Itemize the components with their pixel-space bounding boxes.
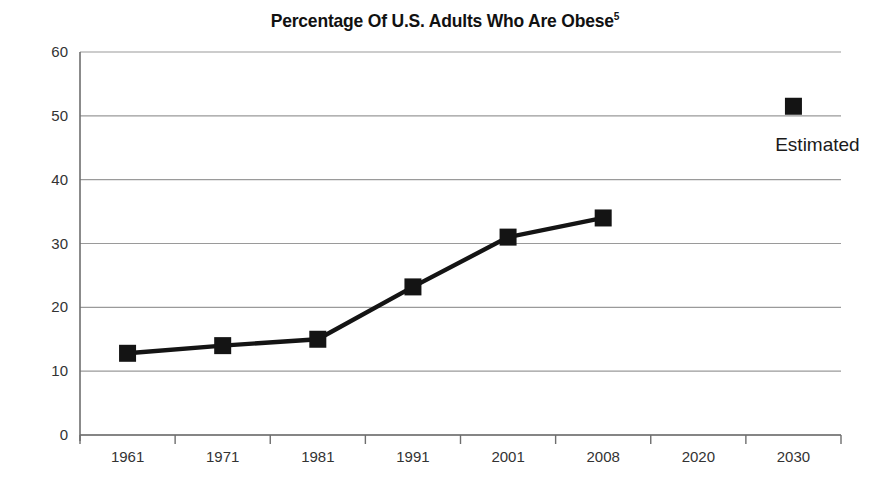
data-point-1971 <box>214 337 231 354</box>
chart-annotations: Estimated <box>775 134 859 155</box>
series-markers <box>119 98 802 362</box>
y-tick-30: 30 <box>51 235 68 252</box>
data-point-1991 <box>404 278 421 295</box>
x-tick-2001: 2001 <box>491 448 524 465</box>
data-point-1981 <box>309 331 326 348</box>
series-line-observed <box>128 218 604 353</box>
x-tick-2020: 2020 <box>682 448 715 465</box>
plot-area: 0102030405060 19611971198119912001200820… <box>0 0 890 494</box>
data-point-1961 <box>119 345 136 362</box>
x-tick-2030: 2030 <box>777 448 810 465</box>
y-tick-40: 40 <box>51 171 68 188</box>
x-tick-1961: 1961 <box>111 448 144 465</box>
data-point-2008 <box>595 209 612 226</box>
y-tick-50: 50 <box>51 107 68 124</box>
x-tick-1991: 1991 <box>396 448 429 465</box>
obesity-line-chart: Percentage Of U.S. Adults Who Are Obese5… <box>0 0 890 494</box>
y-tick-labels: 0102030405060 <box>51 43 68 443</box>
annotation-estimated: Estimated <box>775 134 859 155</box>
y-tick-0: 0 <box>60 426 68 443</box>
data-point-2001 <box>500 229 517 246</box>
x-tick-2008: 2008 <box>587 448 620 465</box>
series-lines <box>128 218 604 353</box>
y-tick-60: 60 <box>51 43 68 60</box>
x-tick-marks <box>80 435 841 444</box>
y-tick-10: 10 <box>51 362 68 379</box>
data-point-2030 <box>785 98 802 115</box>
x-tick-1971: 1971 <box>206 448 239 465</box>
gridlines <box>80 52 841 435</box>
y-tick-20: 20 <box>51 298 68 315</box>
x-tick-labels: 19611971198119912001200820202030 <box>111 448 810 465</box>
x-tick-1981: 1981 <box>301 448 334 465</box>
